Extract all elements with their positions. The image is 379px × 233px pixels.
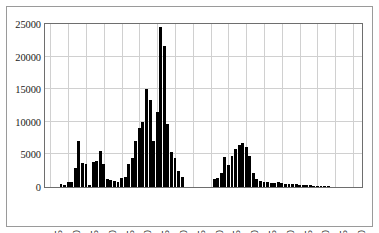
bar (166, 124, 169, 187)
bar (177, 171, 180, 187)
bar (231, 156, 234, 187)
gridline-vertical (317, 24, 318, 187)
bar (117, 182, 120, 187)
y-tick-label: 10000 (1, 118, 41, 128)
bar (273, 183, 276, 187)
gridline-vertical (282, 24, 283, 187)
bar (216, 178, 219, 187)
gridline-vertical (264, 24, 265, 187)
bar (295, 184, 298, 187)
x-tick-label: 1925 (125, 230, 136, 233)
bar (149, 100, 152, 187)
x-tick-label: 1965 (267, 230, 278, 233)
bar (95, 161, 98, 187)
gridline-horizontal (45, 23, 362, 24)
bar (141, 122, 144, 187)
bar (305, 185, 308, 187)
x-tick-label: 1920 (107, 230, 118, 233)
bar (245, 147, 248, 187)
bar (284, 184, 287, 187)
bar (298, 185, 301, 187)
bar (312, 186, 315, 187)
gridline-vertical (68, 24, 69, 187)
bar (320, 186, 323, 187)
bar (213, 179, 216, 187)
y-tick-label: 15000 (1, 85, 41, 95)
gridline-horizontal (45, 88, 362, 89)
bar (99, 151, 102, 187)
bar (238, 145, 241, 187)
bar (309, 185, 312, 187)
x-tick-label: 1915 (89, 230, 100, 233)
y-tick-label: 25000 (1, 20, 41, 30)
gridline-vertical (50, 24, 51, 187)
bar (323, 186, 326, 187)
bar (124, 177, 127, 187)
bar (145, 89, 148, 187)
bar (152, 141, 155, 187)
x-tick-label: 1905 (53, 230, 64, 233)
bar (181, 177, 184, 187)
bar (170, 152, 173, 187)
gridline-vertical (335, 24, 336, 187)
bar (163, 46, 166, 187)
x-tick-label: 1945 (196, 230, 207, 233)
bar (174, 158, 177, 187)
bar (241, 143, 244, 187)
bar (102, 164, 105, 187)
bar (252, 173, 255, 187)
y-tick-label: 20000 (1, 53, 41, 63)
gridline-vertical (300, 24, 301, 187)
bar (127, 164, 130, 187)
gridline-vertical (193, 24, 194, 187)
x-tick-label: 1980 (320, 230, 331, 233)
y-axis: 0500010000150002000025000 (0, 23, 41, 188)
bar (270, 183, 273, 187)
bar (92, 162, 95, 187)
x-tick-label: 1990 (356, 230, 367, 233)
bar (63, 185, 66, 187)
gridline-vertical (211, 24, 212, 187)
bar (259, 181, 262, 187)
x-tick-label: 1970 (285, 230, 296, 233)
gridline-vertical (353, 24, 354, 187)
bar (234, 149, 237, 187)
bar (327, 186, 330, 187)
bar (277, 182, 280, 187)
bar (227, 165, 230, 187)
bar (266, 182, 269, 187)
bar (291, 184, 294, 187)
gridline-vertical (122, 24, 123, 187)
bar (120, 178, 123, 187)
x-tick-label: 1960 (249, 230, 260, 233)
x-tick-label: 1910 (71, 230, 82, 233)
bar (77, 141, 80, 187)
gridline-horizontal (45, 153, 362, 154)
y-tick-label: 0 (1, 183, 41, 193)
bar (81, 163, 84, 187)
y-tick-label: 5000 (1, 150, 41, 160)
bar (88, 185, 91, 187)
bar (67, 182, 70, 187)
bar (134, 141, 137, 187)
x-tick-label: 1950 (214, 230, 225, 233)
bar (223, 157, 226, 187)
bar (138, 128, 141, 187)
x-tick-label: 1940 (178, 230, 189, 233)
x-tick-label: 1985 (338, 230, 349, 233)
bar (280, 183, 283, 187)
bar (109, 180, 112, 187)
gridline-horizontal (45, 121, 362, 122)
bar (288, 184, 291, 187)
bar (70, 182, 73, 187)
bar (60, 184, 63, 187)
bar (74, 168, 77, 187)
x-axis: 1905191019151920192519301935194019451950… (44, 189, 363, 233)
bar (248, 156, 251, 187)
chart-figure: 0500010000150002000025000 19051910191519… (0, 0, 379, 233)
gridline-vertical (228, 24, 229, 187)
bar (113, 181, 116, 187)
bar (220, 173, 223, 187)
bar (302, 185, 305, 187)
bar (255, 179, 258, 187)
